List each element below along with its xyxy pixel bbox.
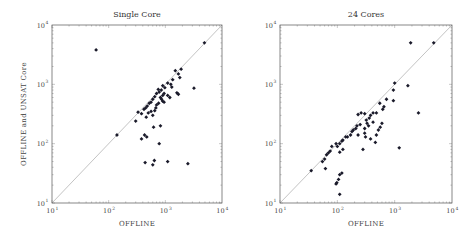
y-tick-exponent: 4: [45, 20, 48, 25]
y-tick-exponent: 1: [45, 198, 48, 203]
diagonal-line: [52, 25, 222, 203]
data-point: [153, 95, 157, 99]
data-point: [152, 125, 156, 129]
data-point: [151, 163, 155, 167]
data-point: [385, 97, 389, 101]
scatter-figure: Single Core101102103104101102103104OFFLI…: [0, 0, 476, 233]
data-point: [376, 128, 380, 132]
data-point: [151, 97, 155, 101]
x-tick-label: 10: [216, 207, 224, 215]
data-point: [94, 48, 98, 52]
data-point: [371, 111, 375, 115]
data-point: [179, 67, 183, 71]
data-point: [157, 142, 161, 146]
x-tick-exponent: 4: [456, 206, 459, 211]
data-point: [140, 137, 144, 141]
data-point: [364, 135, 368, 139]
data-point: [337, 177, 341, 181]
x-tick-label: 10: [332, 207, 340, 215]
y-axis-label: OFFLINE and UNSAT Core: [20, 62, 28, 166]
data-point: [364, 118, 368, 122]
data-point: [341, 148, 345, 152]
y-tick-label: 10: [265, 81, 273, 89]
data-point: [143, 161, 147, 165]
data-point: [371, 120, 375, 124]
data-point: [378, 125, 382, 129]
data-point: [369, 137, 373, 141]
y-tick-exponent: 2: [45, 139, 48, 144]
data-point: [166, 160, 170, 164]
y-tick-exponent: 4: [273, 20, 276, 25]
y-tick-exponent: 2: [273, 139, 276, 144]
x-tick-exponent: 4: [226, 206, 229, 211]
x-tick-exponent: 3: [398, 206, 401, 211]
data-point: [391, 99, 395, 103]
data-point: [358, 123, 362, 127]
data-point: [406, 84, 410, 88]
x-tick-label: 10: [103, 207, 111, 215]
y-tick-label: 10: [265, 22, 273, 30]
data-point: [349, 133, 353, 137]
y-tick-label: 10: [37, 22, 45, 30]
x-tick-exponent: 3: [169, 206, 172, 211]
data-point: [391, 88, 395, 92]
data-point: [323, 157, 327, 161]
data-point: [417, 111, 421, 115]
chart-title: 24 Cores: [348, 10, 384, 19]
data-point: [203, 41, 207, 45]
y-tick-label: 10: [265, 200, 273, 208]
data-point: [356, 113, 360, 117]
panel-24-cores: 24 Cores101102103104101102103104OFFLINE: [265, 10, 459, 228]
data-point: [361, 148, 365, 152]
data-point: [393, 81, 397, 85]
data-point: [176, 72, 180, 76]
x-tick-label: 10: [446, 207, 454, 215]
data-point: [380, 121, 384, 125]
x-tick-exponent: 1: [56, 206, 59, 211]
x-axis-label: OFFLINE: [119, 220, 155, 228]
chart-title: Single Core: [113, 10, 161, 19]
data-point: [159, 124, 163, 128]
data-point: [409, 41, 413, 45]
data-point: [338, 150, 342, 154]
x-tick-exponent: 2: [112, 206, 115, 211]
data-point: [359, 111, 363, 115]
data-point: [178, 76, 182, 80]
x-tick-label: 10: [274, 207, 282, 215]
data-point: [173, 69, 177, 73]
data-point: [432, 41, 436, 45]
data-point: [373, 141, 377, 145]
data-point: [134, 119, 138, 123]
data-point: [324, 167, 328, 171]
data-point: [151, 113, 155, 117]
data-point: [363, 127, 367, 131]
data-point: [186, 162, 190, 166]
data-point: [192, 86, 196, 90]
data-point: [140, 112, 144, 116]
data-point: [374, 133, 378, 137]
y-tick-label: 10: [37, 81, 45, 89]
data-point: [356, 133, 360, 137]
x-tick-label: 10: [389, 207, 397, 215]
data-point: [363, 131, 367, 135]
data-point: [374, 111, 378, 115]
data-point: [397, 146, 401, 150]
y-tick-exponent: 3: [273, 79, 276, 84]
panel-single-core: Single Core101102103104101102103104OFFLI…: [20, 10, 229, 228]
data-point: [378, 101, 382, 105]
y-tick-exponent: 3: [45, 79, 48, 84]
data-point: [136, 110, 140, 114]
data-point: [363, 112, 367, 116]
y-tick-label: 10: [37, 200, 45, 208]
x-axis-label: OFFLINE: [348, 220, 384, 228]
data-point: [338, 192, 342, 196]
data-point: [152, 159, 156, 163]
y-tick-exponent: 1: [273, 198, 276, 203]
x-tick-label: 10: [160, 207, 168, 215]
x-tick-exponent: 1: [284, 206, 287, 211]
x-tick-exponent: 2: [341, 206, 344, 211]
data-point: [144, 115, 148, 119]
y-tick-label: 10: [265, 140, 273, 148]
x-tick-label: 10: [46, 207, 54, 215]
y-tick-label: 10: [37, 140, 45, 148]
